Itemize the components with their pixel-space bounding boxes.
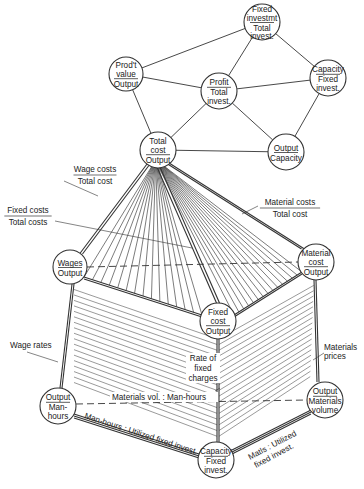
node-denominator: Output [146, 156, 171, 165]
node-numerator: Output [46, 393, 71, 402]
node-denominator: Output [58, 269, 83, 278]
node-denominator: invest. [207, 97, 231, 106]
node-numerator: investmt [247, 14, 278, 23]
label-rate-of-fixed-charges: fixed [194, 364, 212, 373]
label-material-costs: Material costsTotal cost [260, 198, 320, 219]
label-materials-vol-man-hours: Materials vol. : Man-hours [112, 393, 206, 402]
node-numerator: cost [308, 258, 324, 267]
label-wage-costs-numerator: Wage costs [74, 165, 116, 174]
node-numerator: cost [210, 317, 226, 326]
node-profit-total-invest: ProfitTotalinvest. [201, 73, 237, 109]
node-fixed-cost-output: FixedcostOutput [200, 303, 236, 339]
node-numerator: Output [274, 144, 299, 153]
node-output-man-hours: OutputMan-hours [40, 388, 76, 424]
label-materials-prices: prices [324, 352, 346, 361]
node-material-cost-output: MaterialcostOutput [298, 244, 334, 280]
label-wage-costs: Wage costsTotal cost [74, 165, 117, 186]
label-materials-prices: Materials [324, 343, 357, 352]
node-denominator: volume [312, 406, 339, 415]
node-wages-output: WagesOutput [53, 250, 87, 284]
node-denominator: Capacity [270, 154, 303, 163]
node-fixed-invest-total: FixedinvestmtTotalinvest. [244, 4, 280, 41]
label-material-costs-denominator: Total cost [273, 210, 308, 219]
node-numerator: Capacity [200, 447, 233, 456]
label-fixed-costs-numerator: Fixed costs [7, 206, 48, 215]
node-output-capacity: OutputCapacity [268, 134, 304, 170]
ratio-nodes: FixedinvestmtTotalinvest.Prod'tvalueOutp… [40, 4, 346, 478]
node-total-cost-output: TotalcostOutput [140, 132, 176, 168]
node-numerator: Capacity [312, 65, 345, 74]
node-numerator: cost [150, 146, 166, 155]
label-rate-of-fixed-charges: charges [188, 374, 217, 383]
node-denominator: hours [48, 412, 68, 421]
node-denominator: Output [206, 327, 231, 336]
node-numerator: Output [313, 387, 338, 396]
node-numerator: Wages [57, 259, 82, 268]
node-output-materials-volume: OutputMaterialsvolume [307, 382, 343, 418]
label-wage-costs-denominator: Total cost [78, 177, 113, 186]
node-capacity-fixed-invest-bottom: CapacityFixedinvest. [198, 442, 234, 478]
node-denominator: Output [114, 80, 139, 89]
node-denominator: Output [304, 268, 329, 277]
label-man-hours-utilized: Man-hours : Utilized fixed invest. [83, 411, 198, 456]
node-denominator: invest. [250, 32, 274, 41]
node-capacity-fixed-invest-top: CapacityFixedinvest. [310, 60, 346, 96]
label-wage-rates: Wage rates [10, 341, 52, 350]
node-numerator: value [116, 70, 136, 79]
label-rate-of-fixed-charges: Rate of [190, 354, 217, 363]
node-denominator: invest. [316, 84, 340, 93]
label-fixed-costs-denominator: Total costs [9, 218, 48, 227]
label-fixed-costs: Fixed costsTotal costs [4, 206, 51, 227]
ratio-pyramid-diagram: FixedinvestmtTotalinvest.Prod'tvalueOutp… [0, 0, 364, 489]
label-material-costs-numerator: Material costs [265, 198, 316, 207]
node-denominator: invest. [204, 466, 228, 475]
node-numerator: Profit [209, 78, 229, 87]
node-prod-value-output: Prod'tvalueOutput [109, 57, 143, 91]
